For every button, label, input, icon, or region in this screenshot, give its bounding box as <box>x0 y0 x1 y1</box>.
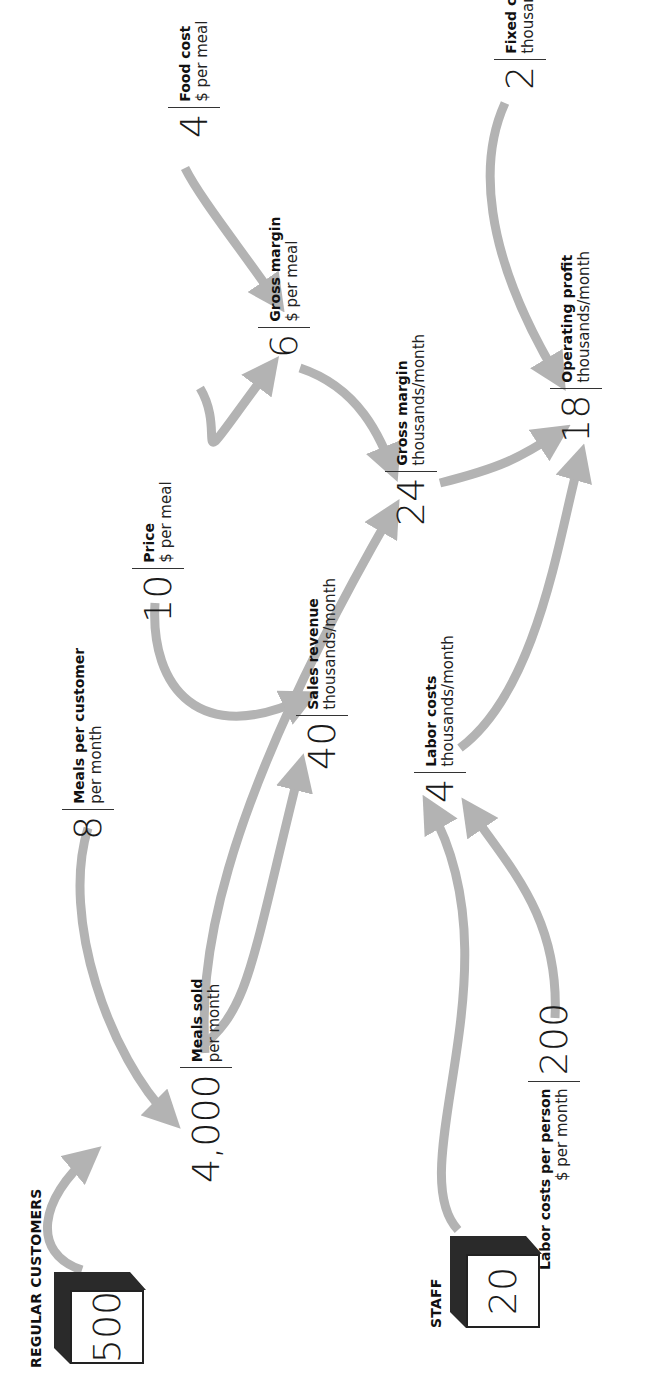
node-unit: thousands/month <box>520 0 537 54</box>
node-unit: $ per meal <box>158 481 175 562</box>
arrow-labor-costs-to-operating-profit <box>460 458 580 748</box>
arrow-labor-per-person-to-labor-costs <box>470 810 555 1018</box>
node-gross-margin-per-meal: 6 Gross margin $ per meal <box>258 217 310 358</box>
arrow-gross-margin-to-operating-profit <box>440 433 558 483</box>
node-value: 6 <box>265 328 303 358</box>
node-labor-costs: 4 Labor costs thousands/month <box>414 635 466 803</box>
node-unit: thousands/month <box>440 635 457 767</box>
arrow-price-to-gross-margin-per-meal <box>200 368 270 442</box>
node-unit: thousands/month <box>322 578 339 710</box>
node-label: Fixed costs thousands/month <box>494 0 546 60</box>
node-unit: $ per meal <box>194 21 211 102</box>
node-value: 10 <box>139 569 177 623</box>
node-title: Labor costs per person <box>537 1088 554 1270</box>
node-unit: $ per meal <box>284 217 301 322</box>
node-value: 40 <box>303 716 341 770</box>
node-title: Operating profit <box>559 251 576 383</box>
node-label: Sales revenue thousands/month <box>296 578 348 716</box>
node-gross-margin-total: 24 Gross margin thousands/month <box>385 334 437 526</box>
diagram-canvas: REGULAR CUSTOMERS 500 STAFF 20 4,000 Mea… <box>0 0 652 1388</box>
node-price: 10 Price $ per meal <box>132 481 184 623</box>
node-label: Operating profit thousands/month <box>550 251 602 389</box>
node-meals-per-customer: 8 Meals per customer per month <box>62 648 114 840</box>
node-value: 8 <box>69 810 107 840</box>
node-title: Gross margin <box>394 334 411 466</box>
node-meals-sold: 4,000 Meals sold per month <box>180 979 232 1183</box>
node-title: Fixed costs <box>503 0 520 54</box>
node-value: 4 <box>175 108 213 138</box>
node-food-cost: 4 Food cost $ per meal <box>168 21 220 138</box>
node-value: 4 <box>421 773 459 803</box>
node-fixed-costs: 2 Fixed costs thousands/month <box>494 0 546 90</box>
node-unit: $ per month <box>554 1088 571 1181</box>
node-title: Meals per customer <box>71 648 88 804</box>
arrow-meals-per-customer-to-meals-sold <box>80 828 170 1118</box>
stock-title: REGULAR CUSTOMERS <box>28 1188 44 1368</box>
arrow-staff-to-labor-costs <box>430 808 465 1230</box>
node-title: Price <box>141 481 158 562</box>
stock-title: STAFF <box>428 1278 444 1328</box>
node-unit: thousands/month <box>411 334 428 466</box>
node-value: 24 <box>392 472 430 526</box>
stock-value: 500 <box>70 1290 144 1364</box>
node-label: Labor costs thousands/month <box>414 635 466 773</box>
node-value: 4,000 <box>187 1068 225 1183</box>
node-title: Labor costs <box>423 635 440 767</box>
node-labor-costs-per-person: Labor costs per person $ per month 200 <box>528 1003 580 1270</box>
node-value: 18 <box>557 389 595 443</box>
node-title: Sales revenue <box>305 578 322 710</box>
node-sales-revenue: 40 Sales revenue thousands/month <box>296 578 348 770</box>
node-title: Gross margin <box>267 217 284 322</box>
node-operating-profit: 18 Operating profit thousands/month <box>550 251 602 443</box>
arrow-fixed-costs-to-operating-profit <box>490 103 558 378</box>
node-label: Labor costs per person $ per month <box>528 1081 580 1270</box>
arrow-customers-to-meals-sold <box>47 1156 90 1270</box>
stock-cube: 500 <box>54 1272 146 1364</box>
node-unit: per month <box>88 648 105 804</box>
node-label: Gross margin thousands/month <box>385 334 437 472</box>
node-value: 2 <box>501 60 539 90</box>
node-unit: thousands/month <box>576 251 593 383</box>
node-unit: per month <box>206 979 223 1063</box>
node-label: Gross margin $ per meal <box>258 217 310 328</box>
node-value: 200 <box>535 1003 573 1082</box>
node-label: Price $ per meal <box>132 481 184 568</box>
node-label: Meals sold per month <box>180 979 232 1069</box>
node-title: Food cost <box>177 21 194 102</box>
node-label: Meals per customer per month <box>62 648 114 810</box>
node-label: Food cost $ per meal <box>168 21 220 108</box>
arrow-gross-margin-per-meal-to-total <box>300 368 392 468</box>
node-title: Meals sold <box>189 979 206 1063</box>
